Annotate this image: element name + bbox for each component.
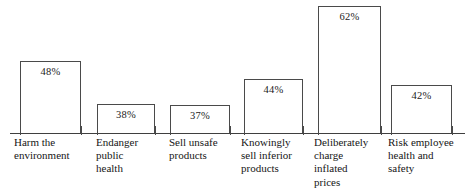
bar-value-label: 42% xyxy=(392,90,451,102)
category-label: Risk employee health and safety xyxy=(388,136,472,176)
axis-tick xyxy=(391,126,392,135)
bar[interactable]: 48% xyxy=(20,61,81,134)
bar-value-label: 48% xyxy=(21,66,80,78)
x-axis-line xyxy=(10,133,465,134)
axis-tick xyxy=(155,126,156,135)
category-label: Knowingly sell inferior products xyxy=(241,136,319,176)
bar-chart: 48%38%37%44%62%42% Harm the environmentE… xyxy=(0,0,472,194)
bar-value-label: 37% xyxy=(171,110,229,122)
axis-tick xyxy=(244,126,245,135)
axis-tick xyxy=(303,126,304,135)
bar[interactable]: 37% xyxy=(170,105,230,134)
bar-value-label: 38% xyxy=(98,109,154,121)
category-label: Endanger public health xyxy=(96,136,166,176)
axis-tick xyxy=(318,126,319,135)
category-label: Deliberately charge inflated prices xyxy=(314,136,392,189)
axis-tick xyxy=(452,126,453,135)
category-label: Harm the environment xyxy=(14,136,98,162)
axis-tick xyxy=(170,126,171,135)
axis-tick xyxy=(230,126,231,135)
axis-tick xyxy=(381,126,382,135)
bar[interactable]: 42% xyxy=(391,85,452,134)
axis-tick xyxy=(81,126,82,135)
bar[interactable]: 44% xyxy=(244,79,303,134)
bar-value-label: 44% xyxy=(245,84,302,96)
bar[interactable]: 62% xyxy=(318,6,381,134)
plot-area: 48%38%37%44%62%42% xyxy=(0,0,472,134)
axis-tick xyxy=(20,126,21,135)
category-label: Sell unsafe products xyxy=(169,136,245,162)
bar-value-label: 62% xyxy=(319,11,380,23)
axis-tick xyxy=(97,126,98,135)
category-labels-row: Harm the environmentEndanger public heal… xyxy=(0,136,472,194)
bar[interactable]: 38% xyxy=(97,104,155,134)
